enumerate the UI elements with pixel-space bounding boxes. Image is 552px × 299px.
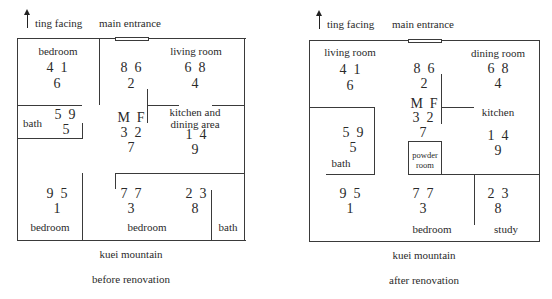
room-label-bath: bath — [332, 158, 351, 169]
star-numbers-bottom: 8 — [192, 202, 199, 216]
room-label-living-room: living room — [324, 47, 376, 58]
star-numbers-top: 2 3 — [488, 187, 509, 201]
wall-bath-bottom — [17, 138, 83, 139]
star-numbers-bottom: 6 — [54, 77, 61, 91]
star-numbers-top: 3 2 — [413, 111, 434, 125]
star-numbers-bottom: 5 — [63, 123, 70, 137]
mf-marker: M F — [410, 97, 437, 111]
wall-bedroom-mid-stub — [115, 173, 116, 189]
floor-plan-before: ting facing main entrance bedroom 4 1 6 … — [0, 0, 276, 299]
room-label-kitchen: kitchen — [482, 107, 514, 118]
star-numbers-top: 4 1 — [47, 61, 68, 75]
star-numbers-bottom: 3 — [128, 202, 135, 216]
main-entrance-door — [408, 39, 442, 43]
star-numbers-top: 3 2 — [121, 126, 142, 140]
north-arrow-icon — [319, 15, 320, 29]
facing-label: ting facing — [35, 18, 82, 29]
room-label-bath-right: bath — [219, 222, 238, 233]
mountain-label: kuei mountain — [392, 250, 455, 261]
wall-bath-right-left — [211, 190, 212, 241]
wall-powder-left — [408, 141, 409, 175]
plan-caption: before renovation — [92, 274, 170, 285]
star-numbers-bottom: 7 — [420, 126, 427, 140]
floor-plan-after: ting facing main entrance living room 4 … — [276, 0, 552, 299]
room-label-powder-room-2: room — [416, 161, 434, 169]
mf-marker: M F — [117, 111, 144, 125]
star-numbers-bottom: 1 — [54, 202, 61, 216]
room-label-kitchen-dining-1: kitchen and — [169, 107, 220, 118]
star-numbers-top: 4 1 — [340, 63, 361, 77]
star-numbers-top: 5 9 — [55, 108, 76, 122]
star-numbers-bottom: 3 — [420, 202, 427, 216]
plan-caption: after renovation — [389, 275, 459, 286]
star-numbers-top: 9 5 — [340, 187, 361, 201]
room-label-dining-room: dining room — [471, 48, 525, 59]
star-numbers-top: 1 4 — [186, 128, 207, 142]
main-entrance-door — [115, 37, 149, 41]
star-numbers-top: 6 8 — [185, 61, 206, 75]
star-numbers-top: 1 4 — [488, 129, 509, 143]
wall-left — [309, 40, 310, 242]
wall-bath-right — [374, 107, 375, 175]
wall-bath-top — [309, 107, 375, 108]
room-label-powder-room-1: powder — [412, 151, 438, 159]
star-numbers-top: 8 6 — [121, 61, 142, 75]
wall-powder-top — [408, 141, 442, 142]
north-arrow-icon — [27, 14, 28, 28]
star-numbers-bottom: 4 — [495, 77, 502, 91]
star-numbers-bottom: 4 — [192, 77, 199, 91]
star-numbers-bottom: 8 — [495, 202, 502, 216]
star-numbers-top: 6 8 — [488, 62, 509, 76]
wall-kitchen-top — [441, 107, 474, 108]
wall-bedroom-left-right — [82, 173, 83, 241]
star-numbers-top: 7 7 — [121, 187, 142, 201]
entrance-label: main entrance — [99, 18, 161, 29]
star-numbers-bottom: 6 — [347, 79, 354, 93]
room-label-bedroom-top-left: bedroom — [38, 46, 77, 57]
star-numbers-bottom: 5 — [350, 141, 357, 155]
wall-study-left — [474, 174, 475, 225]
room-label-study: study — [494, 224, 518, 235]
room-label-bath: bath — [23, 118, 42, 129]
star-numbers-bottom: 1 — [347, 202, 354, 216]
entrance-label: main entrance — [392, 19, 454, 30]
star-numbers-top: 5 9 — [343, 126, 364, 140]
room-label-living-room: living room — [170, 46, 222, 57]
wall-bath-bottom — [326, 174, 375, 175]
room-label-bedroom: bedroom — [412, 224, 451, 235]
facing-label: ting facing — [327, 19, 374, 30]
star-numbers-bottom: 2 — [421, 77, 428, 91]
wall-right — [244, 38, 245, 241]
wall-bedroom-right — [99, 38, 100, 105]
star-numbers-bottom: 9 — [495, 144, 502, 158]
wall-left — [17, 38, 18, 241]
star-numbers-bottom: 2 — [128, 77, 135, 91]
star-numbers-bottom: 7 — [128, 141, 135, 155]
wall-powder-right — [441, 141, 442, 175]
wall-bottom — [309, 241, 540, 242]
wall-bath-right — [82, 123, 83, 139]
room-label-bedroom-bottom-mid: bedroom — [127, 222, 166, 233]
room-label-bedroom-bottom-left: bedroom — [30, 222, 69, 233]
star-numbers-top: 9 5 — [47, 187, 68, 201]
mountain-label: kuei mountain — [99, 249, 162, 260]
star-numbers-top: 2 3 — [186, 187, 207, 201]
wall-kitchen-left — [441, 74, 442, 124]
star-numbers-top: 7 7 — [413, 187, 434, 201]
star-numbers-bottom: 9 — [192, 143, 199, 157]
wall-right — [539, 40, 540, 242]
star-numbers-top: 8 6 — [414, 62, 435, 76]
wall-kitchen-bottom — [115, 173, 245, 174]
